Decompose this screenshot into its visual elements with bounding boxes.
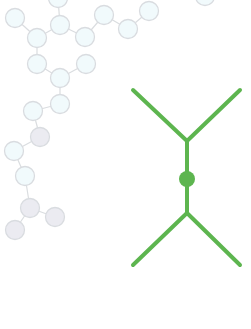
- molecule-atom: [95, 6, 114, 25]
- molecule-atom: [16, 167, 35, 186]
- molecule-atom: [21, 199, 40, 218]
- molecule-atom: [51, 69, 70, 88]
- green-vertex-diagram: [133, 90, 240, 265]
- molecule-atom: [196, 0, 215, 6]
- molecule-atom: [51, 95, 70, 114]
- molecule-atom: [140, 2, 159, 21]
- molecule-atom: [5, 142, 24, 161]
- molecule-atom: [49, 0, 68, 8]
- vertex-line: [187, 90, 240, 141]
- molecule-atom: [28, 55, 47, 74]
- molecule-atom: [28, 29, 47, 48]
- molecule-atom: [46, 208, 65, 227]
- molecule-atom: [6, 221, 25, 240]
- molecule-atom: [76, 28, 95, 47]
- molecule-atom: [51, 16, 70, 35]
- diagram-canvas: [0, 0, 251, 329]
- molecule-atom: [24, 102, 43, 121]
- vertex-line: [187, 213, 240, 265]
- vertex-line: [133, 90, 187, 141]
- molecule-atom: [77, 55, 96, 74]
- vertex-dot: [179, 171, 195, 187]
- molecule-background-graphic: [5, 0, 215, 240]
- molecule-atom: [119, 20, 138, 39]
- molecule-atom: [6, 9, 25, 28]
- molecule-atom: [31, 128, 50, 147]
- vertex-line: [133, 213, 187, 265]
